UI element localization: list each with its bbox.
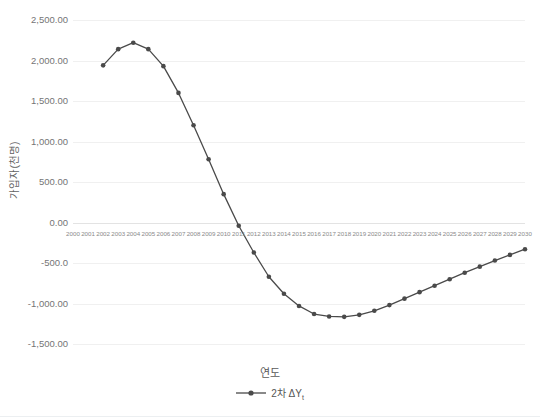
data-point-marker[interactable] (402, 296, 407, 301)
x-axis-tick-label: 2028 (488, 231, 502, 237)
legend-label-subscript: t (302, 394, 304, 401)
x-axis-tick-label: 2023 (413, 231, 427, 237)
x-axis-tick-label: 2018 (337, 231, 351, 237)
y-axis-tick-label: 1,500.00 (0, 96, 68, 106)
data-point-marker[interactable] (478, 264, 483, 269)
data-point-marker[interactable] (493, 258, 498, 263)
x-axis-tick-label: 2027 (473, 231, 487, 237)
x-axis-tick-label: 2005 (141, 231, 155, 237)
x-axis-tick-label: 2020 (367, 231, 381, 237)
y-axis-tick-label: 2,500.00 (0, 15, 68, 25)
data-point-marker[interactable] (161, 64, 166, 69)
x-axis-tick-label: 2029 (503, 231, 517, 237)
legend-item-label: 2차 ΔYt (271, 385, 304, 401)
x-axis-tick-label: 2022 (398, 231, 412, 237)
x-axis-tick-label: 2012 (247, 231, 261, 237)
data-point-marker[interactable] (116, 47, 121, 52)
y-axis-tick-label: 500.00 (0, 177, 68, 187)
x-axis-tick-label: 2024 (428, 231, 442, 237)
y-axis-tick-label: 2,000.00 (0, 56, 68, 66)
legend-label-main: 2차 ΔY (271, 388, 302, 399)
x-axis-tick-label: 2000 (66, 231, 80, 237)
y-axis-tick-label: -1,500.00 (0, 339, 68, 349)
x-axis-tick-label: 2011 (232, 231, 245, 237)
x-axis-tick-label: 2015 (292, 231, 306, 237)
legend-item[interactable]: 2차 ΔYt (236, 385, 304, 401)
data-point-marker[interactable] (297, 304, 302, 309)
data-point-marker[interactable] (236, 223, 241, 228)
x-axis-tick-label: 2019 (352, 231, 366, 237)
data-point-marker[interactable] (372, 308, 377, 313)
data-point-marker[interactable] (462, 270, 467, 275)
gridline (73, 344, 525, 345)
x-axis-tick-label: 2002 (96, 231, 110, 237)
line-chart: 가입자(천명) 2,500.002,000.001,500.001,000.00… (0, 0, 540, 417)
y-axis-tick-label: -1,000.00 (0, 299, 68, 309)
x-axis-tick-label: 2010 (217, 231, 231, 237)
data-point-marker[interactable] (146, 47, 151, 52)
data-point-marker[interactable] (101, 63, 106, 68)
data-point-marker[interactable] (342, 315, 347, 320)
data-point-marker[interactable] (432, 283, 437, 288)
data-point-marker[interactable] (252, 250, 257, 255)
data-point-marker[interactable] (221, 192, 226, 197)
data-point-marker[interactable] (312, 312, 317, 317)
data-point-marker[interactable] (191, 123, 196, 128)
x-axis-tick-label: 2017 (322, 231, 336, 237)
x-axis-tick-label: 2008 (187, 231, 201, 237)
x-axis-tick-label: 2004 (126, 231, 140, 237)
data-point-marker[interactable] (508, 253, 513, 258)
data-point-marker[interactable] (176, 91, 181, 96)
y-axis-tick-label: 1,000.00 (0, 137, 68, 147)
x-axis-tick-label: 2009 (202, 231, 216, 237)
data-point-marker[interactable] (523, 247, 528, 252)
plot-area (73, 20, 525, 344)
series-line (103, 43, 525, 317)
x-axis-tick-label: 2021 (383, 231, 397, 237)
data-point-marker[interactable] (282, 291, 287, 296)
x-axis-tick-label: 2014 (277, 231, 291, 237)
x-axis-tick-label: 2025 (443, 231, 457, 237)
x-axis-tick-label: 2030 (518, 231, 532, 237)
x-axis-tick-labels: 2000200120022003200420052006200720082009… (73, 231, 525, 243)
x-axis-tick-label: 2007 (172, 231, 186, 237)
data-point-marker[interactable] (131, 40, 136, 45)
chart-legend: 2차 ΔYt (0, 385, 540, 401)
data-point-marker[interactable] (417, 290, 422, 295)
y-axis-title: 가입자(천명) (6, 142, 21, 199)
x-axis-tick-label: 2003 (111, 231, 125, 237)
data-point-marker[interactable] (267, 274, 272, 279)
data-point-marker[interactable] (357, 313, 362, 318)
x-axis-tick-label: 2026 (458, 231, 472, 237)
x-axis-title: 연도 (0, 364, 540, 380)
x-axis-tick-label: 2006 (157, 231, 171, 237)
y-axis-tick-label: 0.00 (0, 218, 68, 228)
y-axis-tick-label: -500.0 (0, 258, 68, 268)
legend-line-marker-icon (236, 388, 266, 398)
series-layer (73, 20, 525, 344)
data-point-marker[interactable] (447, 277, 452, 282)
data-point-marker[interactable] (327, 314, 332, 319)
data-point-marker[interactable] (387, 303, 392, 308)
x-axis-tick-label: 2013 (262, 231, 276, 237)
data-point-marker[interactable] (206, 157, 211, 162)
x-axis-tick-label: 2001 (81, 231, 95, 237)
x-axis-tick-label: 2016 (307, 231, 321, 237)
